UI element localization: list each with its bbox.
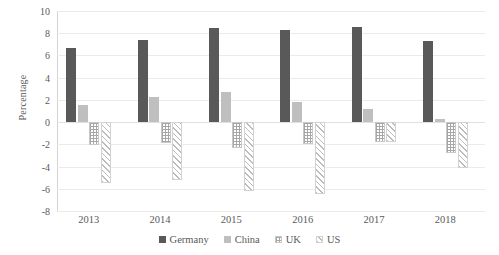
y-axis-label: Percentage (17, 58, 28, 138)
legend-label: China (235, 234, 260, 245)
bar-group-2013 (57, 11, 128, 211)
bar-group-2014 (128, 11, 199, 211)
bar-uk-2018 (446, 122, 456, 153)
bar-uk-2013 (89, 122, 99, 145)
bar-group-2015 (200, 11, 271, 211)
chart-legend: GermanyChinaUKUS (0, 234, 499, 245)
bar-germany-2015 (209, 28, 219, 122)
y-axis-tick: -2 (42, 139, 50, 150)
x-axis-label-2013: 2013 (78, 214, 99, 225)
x-axis-label-2014: 2014 (150, 214, 171, 225)
bar-china-2018 (435, 119, 445, 122)
legend-swatch-china-icon (224, 236, 231, 243)
legend-item-china[interactable]: China (224, 234, 260, 245)
legend-item-us[interactable]: US (316, 234, 340, 245)
x-axis-label-2015: 2015 (221, 214, 242, 225)
legend-item-germany[interactable]: Germany (159, 234, 209, 245)
y-axis-tick: 8 (45, 28, 50, 39)
bar-uk-2014 (161, 122, 171, 143)
bar-china-2014 (149, 97, 159, 123)
bar-us-2016 (315, 122, 325, 194)
bar-china-2013 (78, 105, 88, 122)
x-axis-label-2016: 2016 (292, 214, 313, 225)
bar-china-2015 (221, 92, 231, 122)
x-axis-label-2017: 2017 (364, 214, 385, 225)
y-axis-tick: 4 (45, 72, 50, 83)
bar-group-2018 (414, 11, 485, 211)
bar-uk-2015 (232, 122, 242, 148)
legend-item-uk[interactable]: UK (275, 234, 301, 245)
bar-germany-2014 (138, 40, 148, 122)
bar-us-2014 (172, 122, 182, 180)
bar-us-2015 (244, 122, 254, 191)
bar-germany-2013 (66, 48, 76, 122)
gridline (57, 211, 485, 212)
bar-us-2018 (458, 122, 468, 168)
bar-china-2017 (363, 109, 373, 122)
bar-germany-2018 (423, 41, 433, 122)
y-axis-tick: -8 (42, 206, 50, 217)
y-axis-tick: -6 (42, 183, 50, 194)
y-axis-tick: 10 (40, 6, 50, 17)
bar-chart: Percentage 1086420-2-4-6-8 GermanyChinaU… (0, 0, 499, 255)
bar-germany-2016 (280, 30, 290, 122)
legend-swatch-us-icon (316, 236, 323, 243)
legend-swatch-uk-icon (275, 236, 282, 243)
plot-area: 1086420-2-4-6-8 (57, 11, 485, 211)
bar-uk-2017 (375, 122, 385, 142)
bar-uk-2016 (303, 122, 313, 144)
y-axis-tick: -4 (42, 161, 50, 172)
y-axis-tick: 6 (45, 50, 50, 61)
bar-us-2013 (101, 122, 111, 183)
y-axis-tick: 0 (45, 117, 50, 128)
bar-group-2017 (342, 11, 413, 211)
legend-label: UK (286, 234, 301, 245)
bar-us-2017 (386, 122, 396, 142)
bar-group-2016 (271, 11, 342, 211)
legend-label: US (327, 234, 340, 245)
x-axis-label-2018: 2018 (435, 214, 456, 225)
bar-china-2016 (292, 102, 302, 122)
legend-label: Germany (170, 234, 209, 245)
bar-germany-2017 (352, 27, 362, 123)
y-axis-tick: 2 (45, 94, 50, 105)
legend-swatch-germany-icon (159, 236, 166, 243)
